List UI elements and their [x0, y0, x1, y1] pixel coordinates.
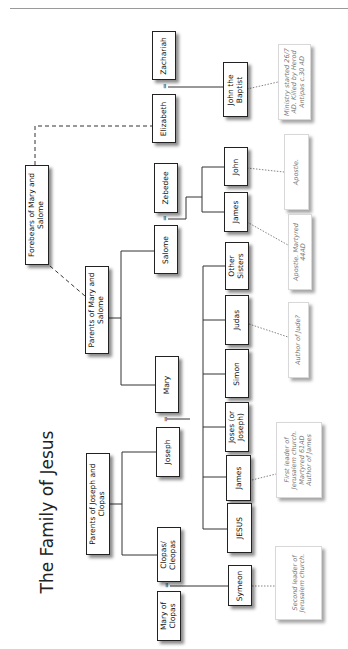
person-parents-of-mary-and-salome: Parents of Mary and Salome [85, 266, 109, 354]
person-label: Mary [163, 375, 172, 394]
person-label: John [232, 158, 241, 174]
person-label: Parents of Mary and Salome [88, 273, 105, 348]
person-elizabeth: Elizabeth [152, 94, 176, 143]
person-label: Joses (or Joseph) [228, 411, 245, 443]
marriage-symbol: = [161, 215, 169, 221]
person-symeon: Symeon [228, 565, 252, 606]
person-label: Salome [162, 236, 171, 264]
person-label: Parents of Joseph and Clopas [89, 463, 106, 544]
person-label: Other Sisters [228, 253, 245, 278]
person-parents-of-joseph-and-clopas: Parents of Joseph and Clopas [86, 453, 110, 555]
person-label: Clopas/ Cleopas [160, 540, 177, 570]
person-label: James [234, 467, 243, 490]
note-symeon: Second leader of Jerusalem church. [275, 546, 322, 620]
person-label: Symeon [236, 570, 245, 600]
note-text: Apostle. [293, 159, 300, 185]
person-jesus: JESUS [227, 503, 252, 553]
person-zebedee: Zebedee [154, 163, 178, 213]
person-mary: Mary [155, 356, 179, 413]
person-label: John the Baptist [227, 74, 244, 105]
note-text: Second leader of Jerusalem church. [291, 554, 306, 613]
person-clopas: Clopas/ Cleopas [157, 527, 181, 582]
person-salome: Salome [154, 225, 178, 274]
person-label: Zebedee [162, 171, 171, 204]
marriage-symbol: = [163, 582, 171, 588]
person-james-apostle: James [224, 192, 248, 232]
person-joseph: Joseph [156, 427, 180, 477]
person-zachariah: Zachariah [152, 31, 176, 80]
person-label: Simon [233, 362, 242, 386]
person-john: John [224, 147, 248, 186]
note-james: First leader of Jerusalem church. Martyr… [276, 422, 322, 498]
note-james-apostle: Apostle. Martyred 44AD [288, 214, 312, 290]
marriage-symbol: = [162, 416, 170, 422]
person-label: JESUS [235, 517, 244, 539]
person-label: Zachariah [160, 37, 169, 75]
note-text: Ministry started 26/7 AD. Killed by Hero… [283, 48, 305, 116]
note-text: Author of Jude? [295, 315, 302, 365]
person-forebears: Forebears of Mary and Salome [25, 165, 49, 265]
person-john-the-baptist: John the Baptist [223, 62, 248, 117]
person-label: James [232, 201, 241, 224]
person-simon: Simon [225, 349, 249, 398]
person-label: Mary of Clopas [160, 602, 177, 630]
marriage-symbol: = [161, 83, 169, 89]
person-label: Judas [233, 310, 242, 330]
note-john-the-baptist: Ministry started 26/7 AD. Killed by Hero… [278, 44, 311, 120]
note-text: Apostle. Martyred 44AD [293, 223, 308, 281]
note-judas: Author of Jude? [288, 302, 309, 378]
diagram-title: The Family of Jesus [37, 431, 57, 594]
person-james: James [226, 455, 251, 501]
note-text: First leader of Jerusalem church. Martyr… [284, 431, 314, 490]
note-john: Apostle. [284, 134, 309, 210]
person-mary-of-clopas: Mary of Clopas [157, 591, 181, 641]
person-judas: Judas [225, 295, 249, 345]
person-other-sisters: Other Sisters [225, 242, 249, 290]
person-label: Forebears of Mary and Salome [28, 173, 45, 257]
person-joses: Joses (or Joseph) [225, 402, 249, 452]
person-label: Joseph [164, 440, 173, 465]
person-label: Elizabeth [160, 101, 169, 136]
